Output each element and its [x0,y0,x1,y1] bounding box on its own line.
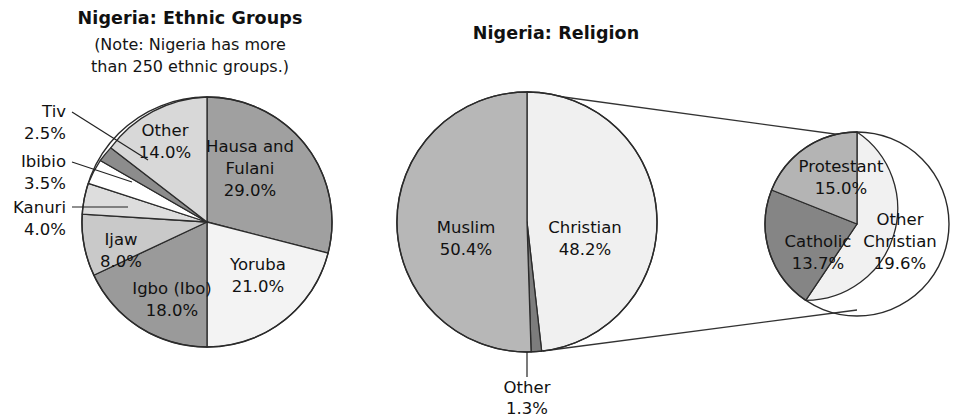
igbo-label-value: 18.0% [146,301,198,320]
religion-chart-title: Nigeria: Religion [473,23,640,43]
hausa-label-line2: Fulani [226,159,275,178]
otherchr-label-line2: Christian [863,232,937,251]
hausa-label-line1: Hausa and [206,137,294,156]
yoruba-label-name: Yoruba [229,255,286,274]
hausa-label-value: 29.0% [224,181,276,200]
ethnic-chart-subtitle-line1: (Note: Nigeria has more [94,35,286,54]
religion-other-label-value: 1.3% [506,399,548,417]
ethnic-chart-title: Nigeria: Ethnic Groups [78,8,303,28]
ethnic-chart-subtitle-line2: than 250 ethnic groups.) [91,57,289,76]
muslim-label-value: 50.4% [440,240,492,259]
catholic-label-name: Catholic [785,232,852,251]
otherchr-label-value: 19.6% [874,254,926,273]
nigeria-demographics-figure: Nigeria: Ethnic Groups (Note: Nigeria ha… [0,0,954,417]
muslim-label-name: Muslim [437,218,496,237]
christian-label-name: Christian [548,218,622,237]
christian-label-value: 48.2% [559,240,611,259]
protestant-label-name: Protestant [799,157,884,176]
otherchr-label-line1: Other [877,210,924,229]
protestant-label-value: 15.0% [815,179,867,198]
igbo-label-name: Igbo (Ibo) [132,279,211,298]
tiv-label-value: 2.5% [24,124,66,143]
ijaw-label-name: Ijaw [104,230,137,249]
catholic-label-value: 13.7% [792,254,844,273]
religion-other-label-name: Other [504,378,551,397]
kanuri-label-value: 4.0% [24,220,66,239]
yoruba-label-value: 21.0% [232,277,284,296]
other-label-name: Other [142,121,189,140]
ibibio-label-value: 3.5% [24,174,66,193]
ijaw-label-value: 8.0% [100,252,142,271]
tiv-label-name: Tiv [41,102,66,121]
ibibio-label-name: Ibibio [21,152,66,171]
kanuri-label-name: Kanuri [13,198,66,217]
